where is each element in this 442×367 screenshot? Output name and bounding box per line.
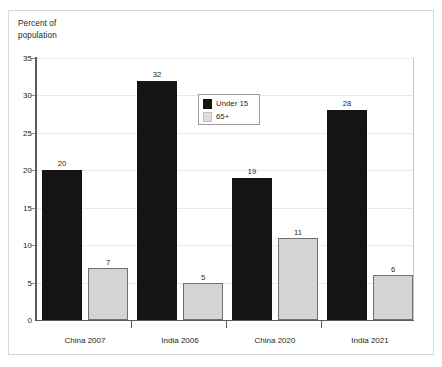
x-axis-label-india-2006: India 2006 (161, 336, 198, 345)
y-tick-0: 0 (8, 316, 32, 325)
bar-india-2021-over65: 6 (373, 275, 413, 320)
y-tick-10: 10 (8, 241, 32, 250)
y-axis-line (35, 57, 37, 321)
legend-label-under15: Under 15 (216, 99, 248, 109)
gray-swatch-icon (203, 112, 212, 122)
bar-india-2006-under15: 32 (137, 81, 177, 321)
bar-value-label: 6 (391, 265, 395, 274)
bar-value-label: 7 (106, 258, 110, 267)
y-tick-30: 30 (8, 91, 32, 100)
x-axis-line (35, 320, 414, 321)
y-tick-mark-25 (30, 133, 35, 134)
bar-india-2021-under15: 28 (327, 110, 367, 320)
y-tick-mark-10 (30, 245, 35, 246)
y-tick-mark-5 (30, 283, 35, 284)
x-axis-label-china-2007: China 2007 (65, 336, 106, 345)
y-axis-ticks: 35 30 25 20 15 10 5 0 (4, 0, 32, 367)
legend-label-over65: 65+ (216, 112, 229, 122)
x-tick-mark-1 (131, 321, 132, 328)
y-tick-mark-15 (30, 208, 35, 209)
y-tick-20: 20 (8, 166, 32, 175)
bar-value-label: 11 (294, 228, 302, 237)
y-tick-15: 15 (8, 203, 32, 212)
bar-china-2020-over65: 11 (278, 238, 318, 320)
x-axis-label-china-2020: China 2020 (255, 336, 296, 345)
y-tick-5: 5 (8, 278, 32, 287)
bar-india-2006-over65: 5 (183, 283, 223, 320)
x-axis-label-india-2021: India 2021 (351, 336, 388, 345)
y-tick-mark-35 (30, 58, 35, 59)
black-swatch-icon (203, 99, 212, 109)
x-tick-mark-2 (226, 321, 227, 328)
bar-value-label: 5 (201, 273, 205, 282)
bar-china-2007-under15: 20 (42, 170, 82, 320)
y-tick-25: 25 (8, 128, 32, 137)
y-tick-mark-30 (30, 95, 35, 96)
bar-value-label: 28 (343, 99, 351, 108)
legend-entry-under15: Under 15 (203, 98, 255, 109)
bar-china-2007-over65: 7 (88, 268, 128, 320)
plot-right-frame (413, 58, 414, 321)
legend: Under 15 65+ (198, 94, 260, 125)
legend-entry-over65: 65+ (203, 111, 255, 122)
y-tick-mark-20 (30, 170, 35, 171)
y-tick-35: 35 (8, 54, 32, 63)
bar-value-label: 20 (58, 159, 66, 168)
chart-figure: Percent of population 20 7 32 5 19 11 (0, 0, 442, 367)
bar-china-2020-under15: 19 (232, 178, 272, 320)
bar-value-label: 32 (153, 70, 161, 79)
bar-value-label: 19 (248, 167, 256, 176)
x-tick-mark-3 (321, 321, 322, 328)
gridline-35 (36, 58, 414, 59)
